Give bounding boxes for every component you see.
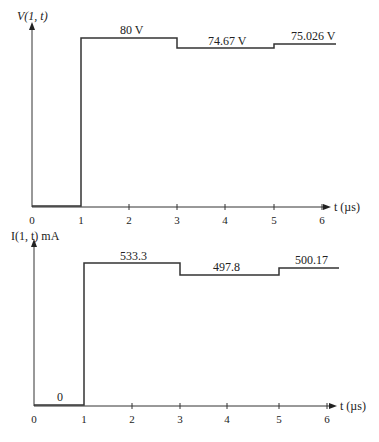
x-tick-label: 5 bbox=[276, 413, 282, 425]
x-tick-label: 6 bbox=[319, 214, 325, 226]
annotation-500-17: 500.17 bbox=[295, 254, 328, 266]
x-tick-label: 4 bbox=[222, 214, 228, 226]
annotation-74-67v: 74.67 V bbox=[208, 35, 246, 47]
x-tick-label: 0 bbox=[31, 413, 37, 425]
annotation-75-026v: 75.026 V bbox=[291, 30, 335, 42]
current-y-axis-label: I(1, t) mA bbox=[11, 230, 59, 242]
x-tick-label: 3 bbox=[174, 214, 180, 226]
x-tick-label: 5 bbox=[271, 214, 277, 226]
x-tick-label: 0 bbox=[29, 214, 35, 226]
voltage-x-axis-label: t (µs) bbox=[334, 201, 360, 213]
x-tick-label: 3 bbox=[177, 413, 183, 425]
current-x-axis-label: t (µs) bbox=[340, 400, 366, 412]
annotation-533-3: 533.3 bbox=[120, 250, 147, 262]
annotation-zero: 0 bbox=[57, 391, 63, 403]
x-tick-label: 2 bbox=[126, 214, 132, 226]
voltage-chart-axes bbox=[32, 26, 327, 210]
x-tick-label: 2 bbox=[129, 413, 135, 425]
annotation-497-8: 497.8 bbox=[213, 261, 240, 273]
voltage-y-axis-label: V(1, t) bbox=[17, 10, 48, 22]
x-tick-label: 4 bbox=[224, 413, 230, 425]
x-tick-label: 1 bbox=[78, 214, 84, 226]
voltage-step-curve bbox=[32, 38, 336, 206]
x-tick-label: 6 bbox=[324, 413, 330, 425]
annotation-80v: 80 V bbox=[120, 24, 143, 36]
current-step-curve bbox=[34, 263, 339, 405]
x-tick-label: 1 bbox=[81, 413, 87, 425]
